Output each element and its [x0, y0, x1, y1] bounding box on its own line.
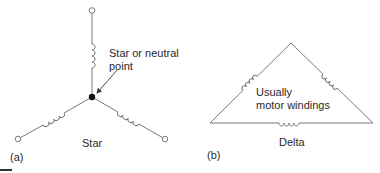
neutral-point-arrow-icon [97, 69, 118, 93]
figure-corner-rule [0, 169, 12, 171]
delta-right-wire-upper [291, 43, 323, 74]
star-title: Star [82, 137, 102, 149]
star-left-winding-icon [43, 113, 65, 128]
connections-diagram [0, 0, 380, 173]
star-connection [15, 8, 168, 142]
delta-right-wire-lower [337, 88, 373, 123]
panel-b-caption: (b) [207, 149, 220, 161]
delta-title: Delta [279, 136, 305, 148]
star-top-winding-icon [92, 44, 95, 68]
star-right-wire-lower [139, 124, 163, 138]
panel-a-caption: (a) [10, 151, 23, 163]
delta-bottom-winding-icon [279, 123, 299, 126]
diagram-canvas: Star or neutral point Star (a) Usually m… [0, 0, 380, 173]
terminal-right-icon [162, 136, 168, 142]
star-annotation-line1: Star or neutral [109, 47, 179, 59]
delta-left-wire-lower [210, 90, 243, 123]
neutral-point-node-icon [89, 94, 95, 100]
delta-annotation-line2: motor windings [256, 99, 330, 111]
star-left-wire-lower [21, 125, 44, 138]
delta-right-winding-icon [321, 74, 337, 90]
delta-annotation-line1: Usually [256, 86, 292, 98]
delta-connection [210, 43, 373, 126]
star-left-wire-upper [64, 97, 92, 113]
delta-left-wire-upper [257, 43, 291, 76]
terminal-top-icon [89, 8, 95, 14]
star-right-wire-upper [92, 97, 118, 112]
terminal-left-icon [15, 136, 21, 142]
star-right-winding-icon [117, 112, 139, 127]
star-annotation-line2: point [109, 60, 133, 72]
delta-left-winding-icon [241, 74, 257, 90]
